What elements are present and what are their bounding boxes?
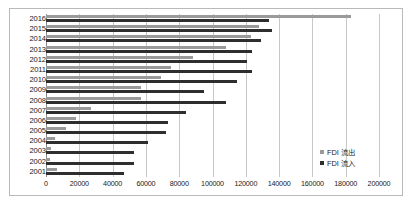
y-axis-tick-label: 2013 [20, 45, 46, 55]
bar-outflow [46, 107, 91, 110]
bar-inflow [46, 70, 252, 73]
x-axis-tick-label: 80000 [170, 179, 189, 188]
y-axis-tick-label: 2008 [20, 96, 46, 106]
chart-legend: FDI 流出FDI 流入 [320, 146, 382, 168]
legend-label: FDI 流入 [327, 157, 355, 168]
bar-outflow [46, 147, 51, 150]
bar-inflow [46, 80, 237, 83]
y-axis-labels: 2016201520142013201220112010200920082007… [20, 14, 46, 177]
bar-outflow [46, 76, 161, 79]
bar-inflow [46, 151, 134, 154]
x-axis-tick-label: 100000 [201, 179, 224, 188]
bar-inflow [46, 141, 148, 144]
y-axis-tick-label: 2010 [20, 75, 46, 85]
bar-inflow [46, 90, 204, 93]
x-axis-tick-label: 60000 [136, 179, 155, 188]
bar-outflow [46, 137, 55, 140]
y-axis-tick-label: 2003 [20, 146, 46, 156]
bar-inflow [46, 39, 261, 42]
bar-outflow [46, 56, 193, 59]
bar-outflow [46, 35, 251, 38]
bar-row [46, 14, 379, 24]
bar-outflow [46, 117, 76, 120]
bar-outflow [46, 97, 141, 100]
y-axis-tick-label: 2012 [20, 55, 46, 65]
y-axis-tick-label: 2004 [20, 136, 46, 146]
bar-row [46, 106, 379, 116]
legend-swatch-icon [320, 161, 324, 165]
y-axis-tick-label: 2007 [20, 106, 46, 116]
y-axis-tick-label: 2002 [20, 157, 46, 167]
bar-row [46, 75, 379, 85]
x-axis-tick-label: 200000 [368, 179, 391, 188]
bar-row [46, 34, 379, 44]
bar-inflow [46, 162, 134, 165]
bar-inflow [46, 101, 226, 104]
bar-inflow [46, 111, 186, 114]
bar-inflow [46, 60, 247, 63]
y-axis-tick-label: 2009 [20, 85, 46, 95]
y-axis-tick-label: 2001 [20, 167, 46, 177]
x-axis-tick-label: 40000 [103, 179, 122, 188]
y-axis-tick-label: 2014 [20, 34, 46, 44]
y-axis-tick-label: 2006 [20, 116, 46, 126]
bar-row [46, 65, 379, 75]
bar-outflow [46, 25, 259, 28]
bar-inflow [46, 121, 168, 124]
y-axis-tick-label: 2016 [20, 14, 46, 24]
y-axis-tick-label: 2005 [20, 126, 46, 136]
legend-label: FDI 流出 [327, 146, 355, 157]
legend-swatch-icon [320, 150, 324, 154]
bar-inflow [46, 29, 272, 32]
bar-outflow [46, 158, 50, 161]
bar-inflow [46, 131, 166, 134]
x-axis-tick-label: 20000 [70, 179, 89, 188]
y-axis-tick-label: 2011 [20, 65, 46, 75]
bar-row [46, 45, 379, 55]
bar-outflow [46, 168, 57, 171]
chart-frame: 2016201520142013201220112010200920082007… [9, 8, 403, 196]
legend-item[interactable]: FDI 流出 [320, 146, 382, 157]
y-axis-tick-label: 2015 [20, 24, 46, 34]
bar-row [46, 116, 379, 126]
bar-row [46, 55, 379, 65]
x-axis-tick-label: 0 [44, 179, 48, 188]
bar-outflow [46, 46, 226, 49]
bar-outflow [46, 15, 351, 18]
bar-outflow [46, 127, 66, 130]
bar-row [46, 85, 379, 95]
bar-row [46, 96, 379, 106]
bar-row [46, 136, 379, 146]
bar-inflow [46, 50, 252, 53]
bar-inflow [46, 19, 269, 22]
x-axis-tick-label: 180000 [334, 179, 357, 188]
bar-row [46, 24, 379, 34]
bar-outflow [46, 66, 171, 69]
bar-row [46, 126, 379, 136]
x-axis-tick-label: 120000 [234, 179, 257, 188]
x-axis-tick-label: 160000 [301, 179, 324, 188]
x-axis-labels: 0200004000060000800001000001200001400001… [46, 179, 379, 191]
bar-outflow [46, 86, 141, 89]
bar-row [46, 167, 379, 177]
legend-item[interactable]: FDI 流入 [320, 157, 382, 168]
x-axis-tick-label: 140000 [268, 179, 291, 188]
bar-inflow [46, 172, 124, 175]
